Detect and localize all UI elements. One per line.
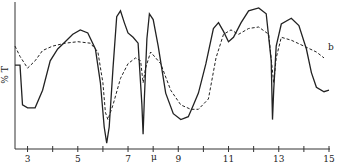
x-axis-label: μ [151, 152, 157, 162]
ir-spectrum-chart: 3579111315 % T μ b [0, 0, 348, 166]
x-tick-label: 5 [75, 154, 81, 164]
x-tick-label: 3 [25, 154, 31, 164]
x-tick-label: 15 [323, 154, 335, 164]
x-tick-label: 13 [273, 154, 285, 164]
series-b-annotation: b [328, 42, 334, 52]
series-solid-line [15, 8, 329, 143]
x-tick-label: 11 [223, 154, 234, 164]
x-tick-labels: 3579111315 [25, 154, 335, 164]
y-axis-label: % T [0, 66, 10, 83]
x-tick-label: 7 [125, 154, 131, 164]
axes: 3579111315 [15, 2, 335, 164]
x-tick-label: 9 [175, 154, 181, 164]
